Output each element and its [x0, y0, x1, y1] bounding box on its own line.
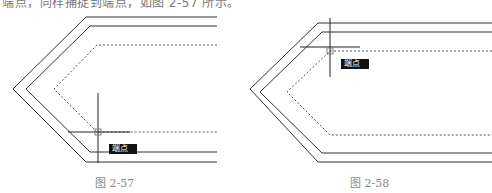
snap-tooltip: 端点 — [109, 144, 137, 154]
figure-caption: 图 2-58 — [350, 174, 389, 190]
figure-2-58: 端点 图 2-58 — [250, 0, 492, 193]
dashed-polyline — [54, 45, 217, 132]
snap-tooltip: 端点 — [341, 59, 369, 69]
figure-2-57: 端点 图 2-57 — [0, 0, 250, 193]
cad-drawing-1 — [0, 0, 250, 193]
figure-caption: 图 2-57 — [95, 174, 134, 190]
outer-polyline — [13, 17, 217, 162]
cad-drawing-2 — [250, 0, 492, 193]
dashed-polyline — [287, 51, 492, 135]
outer-polyline — [250, 23, 492, 162]
